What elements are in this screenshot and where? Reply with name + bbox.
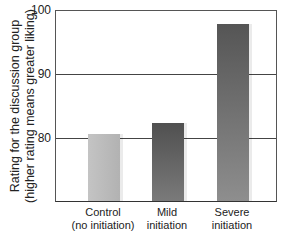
- plot-area: [55, 10, 277, 202]
- y-axis-label-container: Rating for the discussion group (higher …: [0, 10, 46, 202]
- y-axis-label-line-1: Rating for the discussion group: [8, 9, 23, 203]
- bar-mild-initiation: [152, 123, 184, 201]
- y-tick-100: 100: [31, 3, 51, 17]
- y-tick-90: 90: [38, 67, 51, 81]
- y-axis-label: Rating for the discussion group (higher …: [8, 9, 38, 203]
- y-tick-80: 80: [38, 131, 51, 145]
- x-label-severe-line-2: initiation: [192, 219, 272, 232]
- y-axis-label-line-2: (higher rating means greater liking): [23, 9, 38, 203]
- bar-control: [88, 134, 120, 201]
- x-label-severe: Severe initiation: [192, 206, 272, 232]
- x-label-severe-line-1: Severe: [192, 206, 272, 219]
- bar-severe-initiation: [217, 24, 249, 201]
